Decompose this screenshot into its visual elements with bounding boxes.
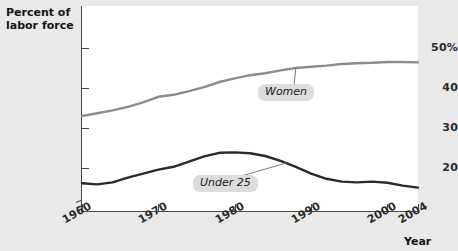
- series-label-under-25: Under 25: [193, 175, 258, 192]
- series-line-women: [82, 62, 418, 116]
- series-label-women: Women: [258, 84, 314, 101]
- chart-series-layer: [0, 0, 458, 251]
- chart-figure: Percent of labor force 50%403020 1960197…: [0, 0, 458, 251]
